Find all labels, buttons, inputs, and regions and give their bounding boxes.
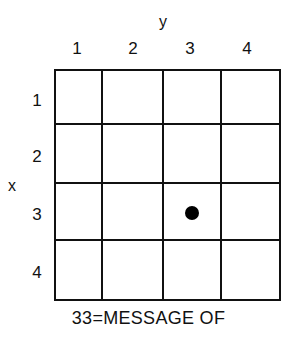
grid-line — [54, 69, 56, 301]
column-label-3: 3 — [185, 40, 194, 57]
row-label-2: 2 — [32, 148, 41, 165]
row-label-1: 1 — [32, 92, 41, 109]
y-axis-label: y — [159, 14, 167, 30]
grid-line — [279, 69, 281, 301]
grid-line — [54, 299, 281, 301]
x-axis-label: x — [8, 178, 16, 194]
grid-line — [101, 69, 103, 301]
row-label-3: 3 — [32, 206, 41, 223]
grid-line — [162, 69, 164, 301]
grid-line — [54, 123, 281, 125]
column-label-4: 4 — [242, 40, 251, 57]
grid-line — [54, 69, 281, 71]
grid-line — [54, 239, 281, 241]
marker-dot — [185, 206, 199, 220]
column-label-1: 1 — [72, 40, 81, 57]
caption: 33=MESSAGE OF — [0, 309, 297, 327]
grid-line — [220, 69, 222, 301]
grid-line — [54, 182, 281, 184]
row-label-4: 4 — [32, 264, 41, 281]
column-label-2: 2 — [128, 40, 137, 57]
